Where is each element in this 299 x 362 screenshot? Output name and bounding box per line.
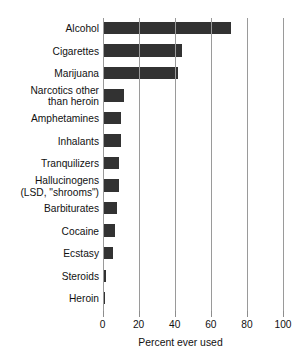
category-label: Inhalants [0,136,99,148]
bar-row [103,41,284,64]
bar [103,44,182,56]
category-label: Narcotics other than heroin [0,85,99,108]
bar-row [103,221,284,244]
category-label-column: AlcoholCigarettesMarijuanaNarcotics othe… [0,18,99,311]
bar-row [103,176,284,199]
bar-row [103,86,284,109]
tick-mark [103,311,104,317]
category-label: Heroin [0,293,99,305]
gridline [175,18,176,311]
bar-row [103,243,284,266]
bar [103,134,121,146]
plot-area [103,18,284,311]
x-tick-label: 60 [205,319,216,331]
bar [103,112,121,124]
category-label: Alcohol [0,23,99,35]
gridline [103,18,104,311]
category-label: Amphetamines [0,113,99,125]
category-label: Cigarettes [0,46,99,58]
x-axis-title: Percent ever used [0,337,299,348]
tick-mark [211,311,212,317]
tick-mark [175,311,176,317]
bar-row [103,288,284,311]
gridline [283,18,284,311]
bar-row [103,266,284,289]
bar-row [103,131,284,154]
x-tick-label: 0 [100,319,106,331]
bar [103,179,119,191]
bar-row [103,63,284,86]
bar [103,67,179,79]
bar [103,202,117,214]
category-label: Cocaine [0,226,99,238]
category-label: Hallucinogens (LSD, "shrooms") [0,175,99,198]
bar [103,224,116,236]
bar-row [103,153,284,176]
category-label: Marijuana [0,68,99,80]
category-label: Barbiturates [0,203,99,215]
x-tick-label: 20 [133,319,144,331]
bar-row [103,108,284,131]
tick-mark [247,311,248,317]
bar-row [103,198,284,221]
gridline [247,18,248,311]
category-label: Ecstasy [0,248,99,260]
bar [103,89,125,101]
x-tick-label: 80 [241,319,252,331]
tick-mark [283,311,284,317]
bar-chart: AlcoholCigarettesMarijuanaNarcotics othe… [0,0,299,362]
bar-row [103,18,284,41]
category-label: Tranquilizers [0,158,99,170]
tick-mark [139,311,140,317]
x-tick-label: 100 [275,319,292,331]
category-label: Steroids [0,271,99,283]
x-tick-label: 40 [169,319,180,331]
bar [103,157,119,169]
gridline [211,18,212,311]
bar [103,247,114,259]
bar-rows [103,18,284,311]
gridline [139,18,140,311]
